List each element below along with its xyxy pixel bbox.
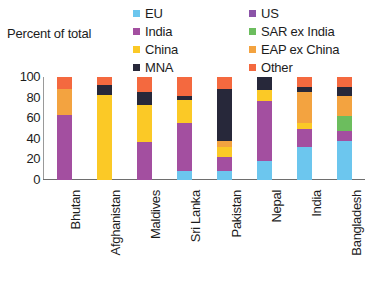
stacked-bar[interactable] <box>297 77 312 180</box>
x-tick-slot: Afghanistan <box>84 186 124 285</box>
legend-label: Other <box>261 61 293 74</box>
y-tick-label: 0 <box>33 173 40 186</box>
legend-item-eu[interactable]: EU <box>133 4 178 22</box>
legend-item-india[interactable]: India <box>133 22 178 40</box>
bar-slot <box>44 77 84 180</box>
legend-swatch-eu <box>133 10 140 17</box>
y-tick-label: 20 <box>27 152 40 165</box>
y-tick-label: 100 <box>20 70 40 83</box>
x-tick-slot: Bhutan <box>44 186 84 285</box>
bar-segment <box>257 90 272 100</box>
bar-slot <box>325 77 365 180</box>
plot-area: 020406080100 <box>0 76 369 186</box>
stacked-bar[interactable] <box>217 77 232 180</box>
bar-segment <box>137 105 152 142</box>
legend-swatch-us <box>249 10 256 17</box>
bar-segment <box>57 89 72 115</box>
legend-swatch-mna <box>133 64 140 71</box>
bar-segment <box>337 77 352 87</box>
bar-segment <box>297 147 312 180</box>
chart-legend: Percent of total EUIndiaChinaMNA USSAR e… <box>0 4 369 76</box>
x-tick-slot: India <box>285 186 325 285</box>
bar-segment <box>337 116 352 130</box>
stacked-bar[interactable] <box>337 77 352 180</box>
x-tick-slot: Sri Lanka <box>164 186 204 285</box>
bar-segment <box>177 171 192 180</box>
stacked-bar[interactable] <box>177 77 192 180</box>
legend-label: China <box>145 43 178 56</box>
bar-segment <box>217 77 232 89</box>
legend-label: EAP ex China <box>261 43 339 56</box>
bar-segment <box>337 131 352 141</box>
bar-segment <box>97 85 112 94</box>
legend-column-right: USSAR ex IndiaEAP ex ChinaOther <box>249 4 339 76</box>
legend-label: India <box>145 25 172 38</box>
bar-slot <box>245 77 285 180</box>
x-tick-label: Pakistan <box>230 190 243 237</box>
legend-label: US <box>261 7 279 20</box>
legend-swatch-eap-ex-china <box>249 46 256 53</box>
bar-segment <box>57 77 72 89</box>
bar-segment <box>297 92 312 123</box>
bar-segment <box>297 129 312 148</box>
bar-segment <box>257 77 272 90</box>
bar-segment <box>57 115 72 180</box>
stacked-bar[interactable] <box>257 77 272 180</box>
bar-slot <box>164 77 204 180</box>
bar-segment <box>217 171 232 180</box>
bar-slot <box>205 77 245 180</box>
legend-label: EU <box>145 7 163 20</box>
bar-segment <box>217 89 232 141</box>
stacked-bar[interactable] <box>97 77 112 180</box>
bar-segment <box>137 92 152 104</box>
stacked-bar[interactable] <box>57 77 72 180</box>
legend-column-left: EUIndiaChinaMNA <box>133 4 178 76</box>
legend-swatch-sar-ex-india <box>249 28 256 35</box>
bar-segment <box>137 142 152 180</box>
bar-slot <box>84 77 124 180</box>
x-tick-label: Bangladesh <box>350 190 363 256</box>
bar-segment <box>297 77 312 87</box>
legend-item-eap-ex-china[interactable]: EAP ex China <box>249 40 339 58</box>
bar-segment <box>337 141 352 180</box>
legend-item-us[interactable]: US <box>249 4 339 22</box>
legend-item-mna[interactable]: MNA <box>133 58 178 76</box>
x-tick-label: Nepal <box>270 190 283 222</box>
legend-swatch-other <box>249 64 256 71</box>
x-tick-label: Sri Lanka <box>189 190 202 242</box>
x-tick-slot: Bangladesh <box>325 186 365 285</box>
y-tick-label: 60 <box>27 111 40 124</box>
stacked-bar[interactable] <box>137 77 152 180</box>
bar-segment <box>257 101 272 162</box>
legend-swatch-china <box>133 46 140 53</box>
bar-slot <box>285 77 325 180</box>
legend-label: MNA <box>145 61 173 74</box>
bar-segment <box>137 77 152 92</box>
x-axis: BhutanAfghanistanMaldivesSri LankaPakist… <box>44 186 365 285</box>
y-axis-title: Percent of total <box>7 26 91 41</box>
bar-slot <box>124 77 164 180</box>
x-tick-label: Maldives <box>149 190 162 239</box>
bar-segment <box>257 161 272 180</box>
x-tick-label: India <box>310 190 323 217</box>
bar-segment <box>177 123 192 170</box>
bar-segment <box>97 95 112 180</box>
legend-item-china[interactable]: China <box>133 40 178 58</box>
legend-item-sar-ex-india[interactable]: SAR ex India <box>249 22 339 40</box>
legend-swatch-india <box>133 28 140 35</box>
x-tick-slot: Maldives <box>124 186 164 285</box>
bar-segment <box>177 77 192 96</box>
bar-group <box>44 77 365 180</box>
y-tick-label: 40 <box>27 131 40 144</box>
bar-segment <box>217 147 232 157</box>
legend-item-other[interactable]: Other <box>249 58 339 76</box>
x-tick-slot: Nepal <box>245 186 285 285</box>
y-axis: 020406080100 <box>0 76 40 180</box>
x-tick-label: Bhutan <box>69 190 82 229</box>
bar-segment <box>177 100 192 124</box>
legend-label: SAR ex India <box>261 25 334 38</box>
x-tick-label: Afghanistan <box>109 190 122 255</box>
bar-segment <box>337 96 352 117</box>
bar-segment <box>337 87 352 95</box>
bar-segment <box>217 157 232 170</box>
